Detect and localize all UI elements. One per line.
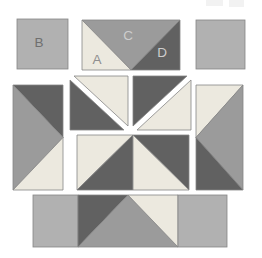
label-a: A — [92, 52, 101, 67]
page-edge-artifact — [206, 0, 223, 6]
bottom-strip-right-square — [178, 195, 227, 247]
quilt-block-assembly-diagram: B A C D — [0, 0, 262, 258]
page-edge-artifact — [229, 0, 244, 7]
bottom-strip-left-square — [33, 195, 78, 247]
square-top-right — [196, 20, 245, 69]
label-d: D — [157, 45, 167, 60]
diagram-svg: B A C D — [0, 0, 262, 258]
label-b: B — [34, 35, 43, 50]
label-c: C — [123, 28, 133, 43]
